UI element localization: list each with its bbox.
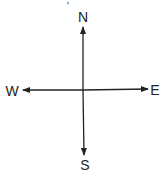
south-label: S bbox=[80, 158, 89, 172]
compass-diagram: ' N S W E bbox=[0, 0, 162, 176]
stray-mark: ' bbox=[67, 2, 69, 12]
south-arrow bbox=[83, 90, 84, 155]
east-arrow bbox=[83, 89, 148, 90]
east-label: E bbox=[150, 83, 159, 97]
north-label: N bbox=[78, 10, 88, 24]
compass-arrows bbox=[0, 0, 162, 176]
west-label: W bbox=[5, 84, 18, 98]
